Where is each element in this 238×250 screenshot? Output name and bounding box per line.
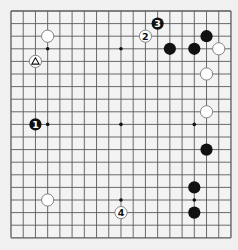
move-number-label: 3 xyxy=(154,18,161,29)
star-point xyxy=(119,198,123,202)
star-point xyxy=(46,47,50,51)
white-stone xyxy=(29,55,41,67)
move-number-label: 4 xyxy=(118,207,125,218)
star-point xyxy=(119,47,123,51)
black-stone-1: 1 xyxy=(29,118,41,130)
move-number-label: 1 xyxy=(32,119,39,130)
move-number-label: 2 xyxy=(142,31,149,42)
black-stone xyxy=(188,43,200,55)
star-point xyxy=(193,123,197,127)
white-stone-icon xyxy=(42,194,54,206)
white-stone xyxy=(200,106,212,118)
white-stone-icon xyxy=(213,43,225,55)
star-point xyxy=(193,198,197,202)
white-stone xyxy=(213,43,225,55)
white-stone-2: 2 xyxy=(139,30,151,42)
star-point xyxy=(46,123,50,127)
black-stone xyxy=(188,207,200,219)
go-board: 1234 xyxy=(0,0,238,250)
star-point xyxy=(119,123,123,127)
black-stone-icon xyxy=(200,30,212,42)
black-stone xyxy=(188,181,200,193)
white-stone xyxy=(42,30,54,42)
black-stone xyxy=(200,30,212,42)
white-stone-icon xyxy=(42,30,54,42)
black-stone xyxy=(200,144,212,156)
black-stone-icon xyxy=(200,144,212,156)
white-stone xyxy=(200,68,212,80)
black-stone-icon xyxy=(164,43,176,55)
black-stone-icon xyxy=(188,43,200,55)
black-stone-icon xyxy=(188,207,200,219)
white-stone-icon xyxy=(200,68,212,80)
black-stone-icon xyxy=(188,181,200,193)
black-stone-3: 3 xyxy=(152,18,164,30)
white-stone-icon xyxy=(200,106,212,118)
white-stone xyxy=(42,194,54,206)
white-stone-4: 4 xyxy=(115,207,127,219)
black-stone xyxy=(164,43,176,55)
